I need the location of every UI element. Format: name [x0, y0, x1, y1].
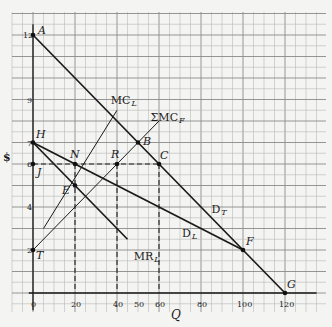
- point-label-C: C: [160, 149, 169, 162]
- x-tick-label: 0: [31, 300, 36, 309]
- curve-label-dl: DL: [182, 227, 197, 241]
- point-J: [31, 162, 36, 167]
- point-E: [73, 183, 78, 188]
- point-label-F: F: [245, 235, 254, 248]
- curve-label-mrl: MRL: [134, 250, 160, 264]
- labels: ABCEFGHJNRTMCLΣMCFDTDLMRL: [35, 24, 296, 291]
- point-A: [31, 33, 36, 38]
- curve-label-mcl: MCL: [111, 94, 137, 108]
- point-H: [31, 140, 36, 145]
- y-axis-label: $: [3, 151, 11, 164]
- point-T: [31, 248, 36, 253]
- point-label-E: E: [61, 184, 70, 197]
- x-axis-label: Q: [171, 308, 181, 322]
- point-label-B: B: [142, 135, 151, 148]
- y-tick-label: 9: [27, 96, 32, 105]
- x-tick-label: 120: [279, 300, 294, 309]
- x-tick-label: 20: [71, 300, 81, 309]
- graph-paper-grid: [12, 12, 326, 312]
- point-label-R: R: [110, 148, 119, 161]
- x-tick-label: 100: [237, 300, 252, 309]
- point-C: [157, 162, 162, 167]
- x-tick-label: 40: [113, 300, 123, 309]
- x-tick-label: 80: [197, 300, 207, 309]
- curve-label-dt: DT: [212, 203, 228, 217]
- point-B: [136, 140, 141, 145]
- x-tick-label: 50: [134, 300, 144, 309]
- point-G: [283, 291, 288, 296]
- point-F: [241, 248, 246, 253]
- point-R: [115, 162, 120, 167]
- point-label-J: J: [35, 166, 42, 179]
- point-N: [73, 162, 78, 167]
- curve-mcl: [44, 110, 118, 228]
- point-label-H: H: [35, 128, 46, 141]
- y-tick-label: 4: [27, 203, 32, 212]
- point-label-A: A: [37, 24, 46, 37]
- cartel-diagram: 020405060801001201297642$Q ABCEFGHJNRTMC…: [0, 0, 332, 327]
- point-label-G: G: [287, 278, 296, 291]
- point-label-N: N: [69, 148, 80, 161]
- x-tick-label: 60: [155, 300, 165, 309]
